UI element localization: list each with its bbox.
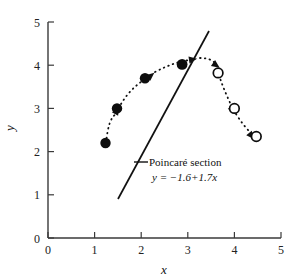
y-tick-label-5: 5 bbox=[34, 16, 40, 30]
figure-container: 0 1 2 3 4 5 0 1 2 3 4 5 x y bbox=[0, 0, 285, 280]
x-tick-label-3: 3 bbox=[185, 243, 191, 257]
data-point-open-1 bbox=[213, 68, 223, 78]
x-tick-label-5: 5 bbox=[278, 243, 284, 257]
data-point-filled-4 bbox=[177, 59, 188, 70]
y-tick-label-3: 3 bbox=[34, 102, 40, 116]
axis-lines bbox=[48, 22, 281, 238]
poincare-section-label: Poincaré section bbox=[149, 156, 222, 168]
poincare-section-equation: y = −1.6+1.7x bbox=[151, 171, 217, 183]
dotted-trajectory bbox=[106, 58, 250, 143]
trajectory-seg-6 bbox=[236, 114, 250, 132]
x-tick-label-0: 0 bbox=[45, 243, 51, 257]
trajectory-seg-5 bbox=[219, 75, 231, 105]
data-point-filled-2 bbox=[112, 103, 122, 113]
x-axis-title: x bbox=[160, 262, 167, 277]
x-tick-label-1: 1 bbox=[92, 243, 98, 257]
data-point-open-2 bbox=[230, 104, 240, 114]
x-tick-labels: 0 1 2 3 4 5 bbox=[45, 243, 284, 257]
data-point-filled-3 bbox=[140, 73, 150, 83]
y-tick-label-1: 1 bbox=[34, 188, 40, 202]
x-tick-label-4: 4 bbox=[231, 243, 237, 257]
x-tick-label-2: 2 bbox=[138, 243, 144, 257]
chart-canvas: 0 1 2 3 4 5 0 1 2 3 4 5 x y bbox=[0, 0, 285, 280]
data-point-filled-1 bbox=[100, 138, 110, 148]
y-axis-ticks bbox=[48, 22, 54, 238]
data-point-open-3 bbox=[251, 132, 261, 142]
y-tick-label-0: 0 bbox=[34, 232, 40, 246]
y-tick-label-2: 2 bbox=[34, 145, 40, 159]
y-axis-title: y bbox=[2, 125, 17, 133]
trajectory-seg-4 bbox=[200, 58, 215, 63]
x-axis-ticks bbox=[48, 232, 281, 238]
filled-data-points bbox=[100, 59, 187, 148]
y-tick-label-4: 4 bbox=[34, 59, 40, 73]
y-tick-labels: 0 1 2 3 4 5 bbox=[34, 16, 40, 246]
